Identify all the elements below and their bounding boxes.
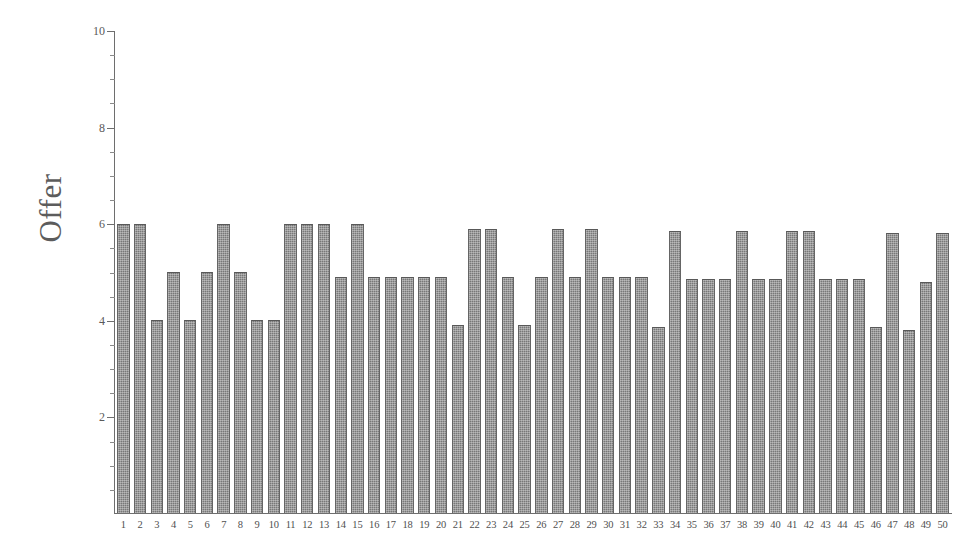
bar	[819, 279, 831, 513]
x-tick-label: 15	[349, 519, 366, 530]
bar-slot	[383, 31, 400, 513]
x-tick-label: 27	[550, 519, 567, 530]
bar-slot	[316, 31, 333, 513]
x-tick-label: 20	[433, 519, 450, 530]
y-axis-title: Offer	[33, 143, 69, 273]
bar-slot	[282, 31, 299, 513]
bar	[435, 277, 447, 513]
x-tick-label: 47	[884, 519, 901, 530]
y-tick-label: 4	[99, 313, 105, 328]
x-axis-line	[114, 513, 952, 514]
bar	[569, 277, 581, 513]
bar-slot	[934, 31, 951, 513]
bar	[736, 231, 748, 513]
x-tick-label: 41	[784, 519, 801, 530]
bar	[903, 330, 915, 513]
bar	[920, 282, 932, 513]
bar	[669, 231, 681, 513]
bar-slot	[182, 31, 199, 513]
x-tick-label: 7	[215, 519, 232, 530]
bar-slot	[332, 31, 349, 513]
x-tick-label: 49	[918, 519, 935, 530]
bar	[368, 277, 380, 513]
bar	[468, 229, 480, 513]
tick-mark	[107, 128, 115, 129]
bar-slot	[650, 31, 667, 513]
bar-slot	[165, 31, 182, 513]
bar-slot	[349, 31, 366, 513]
bar	[552, 229, 564, 513]
x-tick-label: 1	[115, 519, 132, 530]
x-tick-label: 3	[148, 519, 165, 530]
bar-slot	[918, 31, 935, 513]
bar	[452, 325, 464, 513]
x-tick-label: 10	[265, 519, 282, 530]
x-tick-label: 25	[516, 519, 533, 530]
x-tick-label: 37	[717, 519, 734, 530]
x-tick-label: 12	[299, 519, 316, 530]
y-tick-label: 6	[99, 217, 105, 232]
bar	[134, 224, 146, 513]
bar	[502, 277, 514, 513]
plot-area: 246810	[114, 31, 952, 514]
bar	[485, 229, 497, 513]
bar-slot	[667, 31, 684, 513]
bar-slot	[633, 31, 650, 513]
bar-slot	[500, 31, 517, 513]
x-tick-label: 34	[667, 519, 684, 530]
bar-slot	[767, 31, 784, 513]
x-tick-label: 38	[734, 519, 751, 530]
x-tick-label: 30	[600, 519, 617, 530]
bar	[803, 231, 815, 513]
bar	[836, 279, 848, 513]
bar-slot	[851, 31, 868, 513]
x-tick-label: 5	[182, 519, 199, 530]
bar	[318, 224, 330, 513]
bar	[234, 272, 246, 513]
x-tick-label: 18	[399, 519, 416, 530]
x-tick-label: 26	[533, 519, 550, 530]
x-tick-label: 33	[650, 519, 667, 530]
y-tick-label: 2	[99, 410, 105, 425]
bar	[870, 327, 882, 513]
x-tick-label: 45	[851, 519, 868, 530]
bar	[719, 279, 731, 513]
x-tick-label: 28	[566, 519, 583, 530]
x-tick-label: 40	[767, 519, 784, 530]
bar	[117, 224, 129, 513]
bar-slot	[433, 31, 450, 513]
bar-slot	[399, 31, 416, 513]
bar-slot	[566, 31, 583, 513]
x-tick-label: 36	[700, 519, 717, 530]
x-tick-label: 48	[901, 519, 918, 530]
bar-slot	[550, 31, 567, 513]
bar-slot	[800, 31, 817, 513]
bar-slot	[867, 31, 884, 513]
y-tick-label: 10	[93, 24, 105, 39]
x-tick-label: 19	[416, 519, 433, 530]
bar	[401, 277, 413, 513]
bar-slot	[834, 31, 851, 513]
bar	[351, 224, 363, 513]
bar	[201, 272, 213, 513]
bar	[786, 231, 798, 513]
x-tick-label: 21	[449, 519, 466, 530]
bar-slot	[583, 31, 600, 513]
tick-mark	[107, 417, 115, 418]
bar-slot	[148, 31, 165, 513]
bar-slot	[734, 31, 751, 513]
x-tick-label: 31	[617, 519, 634, 530]
bar-slot	[416, 31, 433, 513]
bar	[284, 224, 296, 513]
bar-slot	[901, 31, 918, 513]
tick-mark	[107, 224, 115, 225]
x-tick-label: 8	[232, 519, 249, 530]
bar-slot	[299, 31, 316, 513]
x-tick-label: 44	[834, 519, 851, 530]
bar-slot	[717, 31, 734, 513]
y-tick-label: 8	[99, 120, 105, 135]
bar-slot	[700, 31, 717, 513]
bar	[769, 279, 781, 513]
bar	[635, 277, 647, 513]
x-tick-label: 23	[483, 519, 500, 530]
